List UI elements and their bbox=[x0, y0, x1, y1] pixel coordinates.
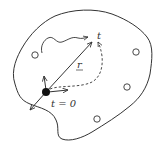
right-velocity-arrow bbox=[48, 90, 68, 92]
trap-circle-3 bbox=[124, 84, 130, 90]
trap-circle-1 bbox=[32, 52, 38, 58]
end-time-label: t bbox=[97, 30, 102, 41]
diffusion-diagram: t r t = 0 bbox=[0, 0, 162, 146]
wavy-trajectory-arrow bbox=[41, 37, 88, 53]
up-velocity-arrow bbox=[44, 76, 46, 90]
trap-circle-2 bbox=[133, 49, 139, 55]
particle-dot bbox=[42, 88, 50, 96]
start-time-label: t = 0 bbox=[51, 98, 77, 109]
trap-circle-4 bbox=[94, 116, 100, 122]
displacement-vector-arrow bbox=[46, 42, 92, 92]
domain-boundary bbox=[13, 10, 151, 140]
displacement-label: r bbox=[77, 59, 83, 70]
